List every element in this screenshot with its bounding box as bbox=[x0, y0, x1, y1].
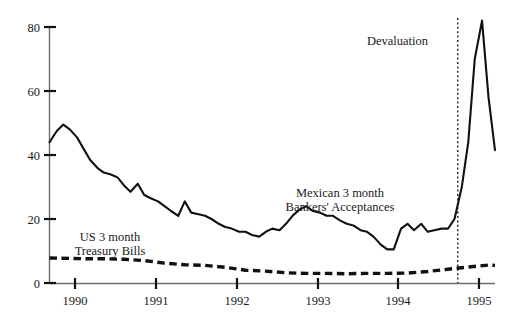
chart-figure: 80 60 40 20 0 1990 1991 1992 1993 1994 1… bbox=[0, 0, 509, 326]
series-line-mexican-bankers-acceptances bbox=[50, 21, 496, 250]
series-label-us-line1: US 3 month bbox=[80, 230, 141, 244]
x-tick-label-1990: 1990 bbox=[63, 294, 88, 308]
y-tick-label-20: 20 bbox=[28, 213, 41, 227]
y-tick-label-60: 60 bbox=[28, 85, 41, 99]
x-tick-label-1995: 1995 bbox=[467, 294, 492, 308]
x-tick-label-1994: 1994 bbox=[386, 294, 412, 308]
y-tick-label-0: 0 bbox=[34, 277, 40, 291]
x-tick-label-1993: 1993 bbox=[306, 294, 331, 308]
series-label-mexican-line1: Mexican 3 month bbox=[296, 186, 385, 200]
series-label-us-line2: Treasury Bills bbox=[75, 244, 146, 258]
x-tick-label-1991: 1991 bbox=[144, 294, 169, 308]
y-tick-label-40: 40 bbox=[28, 149, 41, 163]
chart-svg: 80 60 40 20 0 1990 1991 1992 1993 1994 1… bbox=[0, 0, 509, 326]
y-tick-label-80: 80 bbox=[28, 21, 41, 35]
devaluation-label: Devaluation bbox=[367, 34, 429, 48]
x-tick-label-1992: 1992 bbox=[225, 294, 250, 308]
series-label-mexican-line2: Bankers' Acceptances bbox=[286, 200, 395, 214]
series-line-us-treasury-bills bbox=[50, 258, 496, 274]
page-caption-strip bbox=[0, 316, 509, 326]
